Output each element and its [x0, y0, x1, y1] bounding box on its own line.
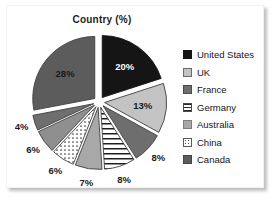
legend-item-germany[interactable]: Germany	[183, 99, 269, 117]
pie-slice-data-label: 8%	[152, 152, 166, 163]
pie-chart: 20%13%8%8%7%6%6%4%28%	[15, 28, 183, 186]
pie-chart-svg: 20%13%8%8%7%6%6%4%28%	[15, 28, 183, 186]
pie-slice-data-label: 7%	[79, 177, 93, 186]
pie-slice-data-label: 8%	[117, 174, 131, 185]
legend-swatch-icon	[183, 103, 192, 112]
legend-label: France	[197, 85, 227, 95]
pie-slice-data-label: 13%	[133, 100, 153, 111]
pie-slice-data-label: 6%	[26, 144, 40, 155]
chart-title: Country (%)	[7, 14, 197, 25]
pie-slice-data-label: 4%	[15, 121, 29, 132]
pie-slice-data-label: 20%	[115, 61, 135, 72]
legend-swatch-icon	[183, 120, 192, 129]
chart-card: Country (%) 20%13%8%8%7%6%6%4%28% United…	[6, 5, 264, 188]
legend-label: Canada	[197, 155, 230, 165]
legend-item-canada[interactable]: Canada	[183, 151, 269, 169]
legend-label: United States	[197, 50, 254, 60]
legend-item-uk[interactable]: UK	[183, 64, 269, 82]
legend-label: Germany	[197, 103, 236, 113]
legend-item-china[interactable]: China	[183, 134, 269, 152]
legend-swatch-icon	[183, 155, 192, 164]
legend-label: Australia	[197, 120, 234, 130]
pie-slice-data-label: 28%	[56, 68, 76, 79]
legend-item-united-states[interactable]: United States	[183, 46, 269, 64]
legend-label: UK	[197, 68, 210, 78]
legend-item-france[interactable]: France	[183, 81, 269, 99]
legend-swatch-icon	[183, 85, 192, 94]
legend-swatch-icon	[183, 68, 192, 77]
legend-item-australia[interactable]: Australia	[183, 116, 269, 134]
legend-label: China	[197, 138, 222, 148]
legend-swatch-icon	[183, 138, 192, 147]
legend-swatch-icon	[183, 50, 192, 59]
pie-slice-data-label: 6%	[48, 165, 62, 176]
chart-legend: United States UK France Germany Australi…	[183, 46, 269, 169]
